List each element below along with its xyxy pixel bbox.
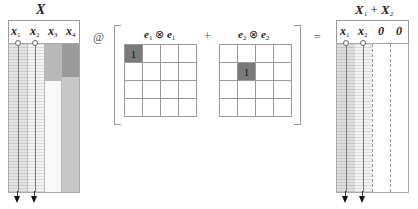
- result-column-label-zero-4: 0: [396, 24, 402, 39]
- result-dash-divider: [390, 44, 391, 192]
- column-label-x4: x4: [66, 24, 76, 39]
- column-label-x3: x3: [48, 24, 58, 39]
- result-colline-2: [363, 44, 364, 192]
- grid-cell: [256, 99, 274, 117]
- grid-cell: [161, 99, 179, 117]
- matrix-x-divider: [61, 44, 62, 192]
- matrix-x-title: X: [36, 2, 45, 18]
- grid-cell: [179, 99, 197, 117]
- matrix-x-colline-1: [18, 44, 19, 192]
- grid-cell: [220, 99, 238, 117]
- arrow-down-icon: [14, 196, 20, 203]
- grid-cell: [274, 81, 292, 99]
- grid-cell: [256, 63, 274, 81]
- matrix-x-column-4: [61, 44, 79, 192]
- matrix-x-body: [8, 43, 80, 193]
- column-selector-x1: [15, 40, 21, 46]
- grid-cell: [161, 63, 179, 81]
- matrix-x-divider: [44, 44, 45, 192]
- grid-cell: [274, 99, 292, 117]
- result-matrix-title: X1 + X2: [355, 2, 393, 18]
- grid-cell-active: 1: [125, 45, 143, 63]
- arrow-down-icon: [31, 196, 37, 203]
- kron-grid-2: 1: [219, 44, 292, 117]
- matrix-x-divider: [27, 44, 28, 192]
- matmul-operator: @: [93, 30, 104, 45]
- grid-cell: [274, 45, 292, 63]
- grid-cell: [125, 99, 143, 117]
- grid-cell: [256, 45, 274, 63]
- right-square-bracket: [294, 25, 301, 125]
- kron-term-2-label: e2 ⊗ e2: [238, 28, 269, 42]
- arrow-down-icon: [342, 196, 348, 203]
- grid-cell: [274, 63, 292, 81]
- column-label-x1: x1: [11, 24, 21, 39]
- result-column-selector-x1: [343, 40, 349, 46]
- grid-cell: [256, 81, 274, 99]
- result-column-label-x1: x1: [340, 24, 350, 39]
- grid-cell: [125, 63, 143, 81]
- grid-cell: [179, 45, 197, 63]
- grid-cell: [179, 81, 197, 99]
- result-colline-1: [346, 44, 347, 192]
- grid-cell: [238, 99, 256, 117]
- grid-cell: [220, 81, 238, 99]
- grid-cell: [161, 81, 179, 99]
- grid-cell: [143, 81, 161, 99]
- result-dash-divider: [372, 44, 373, 192]
- left-square-bracket: [114, 25, 121, 125]
- matrix-x-column-3: [44, 44, 61, 192]
- result-column-selector-x2: [360, 40, 366, 46]
- result-matrix-body: [336, 43, 409, 193]
- kron-term-1-label: e1 ⊗ e1: [144, 28, 175, 42]
- grid-cell: [220, 45, 238, 63]
- column-selector-x2: [32, 40, 38, 46]
- grid-cell: [238, 45, 256, 63]
- grid-cell: [143, 99, 161, 117]
- arrow-down-icon: [359, 196, 365, 203]
- grid-cell-active: 1: [238, 63, 256, 81]
- kron-grid-1: 1: [124, 44, 197, 117]
- matrix-x-colline-2: [35, 44, 36, 192]
- grid-cell: [143, 45, 161, 63]
- grid-cell: [179, 63, 197, 81]
- column-label-x2: x2: [30, 24, 40, 39]
- result-column-label-x2: x2: [358, 24, 368, 39]
- grid-cell: [125, 81, 143, 99]
- grid-cell: [143, 63, 161, 81]
- plus-operator: +: [204, 29, 211, 44]
- result-column-label-zero-3: 0: [378, 24, 384, 39]
- equals-operator: =: [314, 30, 321, 45]
- grid-cell: [238, 81, 256, 99]
- grid-cell: [161, 45, 179, 63]
- grid-cell: [220, 63, 238, 81]
